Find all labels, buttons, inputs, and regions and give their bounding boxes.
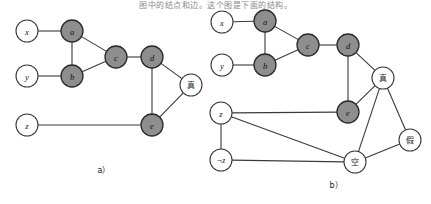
graph-node-b[interactable]: b [254, 54, 276, 76]
graph-edge [356, 86, 375, 105]
node-label: a [263, 17, 267, 27]
graph-node-z[interactable]: z [16, 114, 38, 136]
graph-edge [232, 112, 337, 113]
graph-node-c[interactable]: c [297, 34, 319, 56]
graph-node-b[interactable]: b [61, 65, 83, 87]
node-label: x [24, 27, 29, 37]
graph-node-a[interactable]: a [61, 20, 83, 42]
caption-a: a） [98, 166, 111, 175]
node-label: e [346, 108, 350, 118]
node-label: 真 [379, 73, 387, 83]
node-label: e [150, 121, 154, 131]
edge-group-a [38, 31, 183, 125]
graph-edge [81, 37, 106, 52]
graph-node-x[interactable]: x [211, 11, 233, 33]
node-label: 假 [406, 136, 414, 145]
node-label: y [24, 72, 29, 82]
graph-node-jia[interactable]: 假 [399, 129, 421, 151]
figure-container: 图中的结点和边。这个图是下面的结构。 xaybcd真ze xaybcd真e假空z… [0, 0, 431, 204]
graph-node-zhen[interactable]: 真 [372, 67, 394, 89]
node-label: c [306, 41, 310, 51]
graph-node-y[interactable]: y [211, 54, 233, 76]
graph-node-zhen[interactable]: 真 [180, 74, 202, 96]
graph-edge [161, 63, 182, 78]
graph-node-y[interactable]: y [16, 65, 38, 87]
graph-node-d[interactable]: d [141, 46, 163, 68]
graph-node-nz[interactable]: ¬z [210, 149, 232, 171]
node-label: b [263, 61, 267, 71]
graph-node-x[interactable]: x [16, 20, 38, 42]
graph-node-kong[interactable]: 空 [344, 151, 366, 173]
graph-edge [82, 61, 106, 71]
graph-edge [356, 53, 375, 71]
graph-node-e[interactable]: e [337, 101, 359, 123]
node-label: b [70, 72, 74, 82]
node-group-a: xaybcd真ze [16, 20, 202, 136]
node-label: a [70, 27, 74, 37]
node-label: c [114, 53, 118, 63]
graph-node-z[interactable]: z [210, 102, 232, 124]
graph-edge [275, 26, 299, 39]
node-label: x [219, 18, 224, 28]
graph-node-d[interactable]: d [337, 34, 359, 56]
graph-node-a[interactable]: a [254, 10, 276, 32]
graph-edge [275, 50, 298, 61]
graph-node-c[interactable]: c [105, 46, 127, 68]
graph-edge [365, 144, 400, 158]
node-label: y [219, 61, 224, 71]
graph-edge [160, 93, 184, 117]
graph-edge [231, 117, 344, 158]
node-label: ¬z [217, 156, 226, 165]
node-label: z [218, 109, 223, 119]
node-label: z [24, 121, 29, 131]
graph-node-e[interactable]: e [141, 114, 163, 136]
diagram-canvas: xaybcd真ze xaybcd真e假空z¬z a） b） [0, 0, 431, 204]
node-label: 真 [187, 80, 195, 90]
graph-edge [358, 88, 379, 151]
node-label: 空 [351, 157, 359, 167]
graph-edge [387, 88, 405, 130]
graph-edge [232, 160, 344, 162]
caption-b: b） [329, 181, 342, 190]
